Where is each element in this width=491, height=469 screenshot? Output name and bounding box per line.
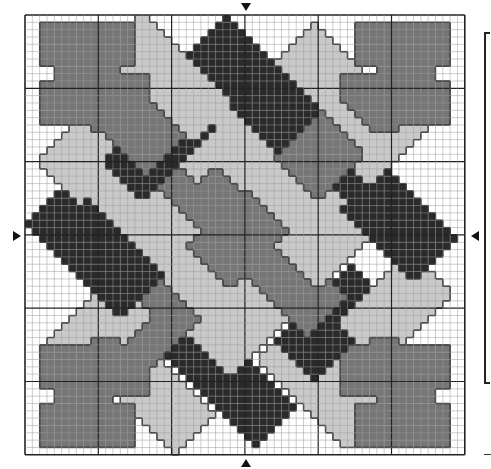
stitch-cell [208, 411, 216, 419]
stitch-cell [443, 228, 451, 236]
stitch-cell [216, 220, 224, 228]
stitch-cell [157, 59, 165, 67]
stitch-cell [98, 257, 106, 265]
stitch-cell [62, 198, 70, 206]
stitch-cell [311, 382, 319, 390]
stitch-cell [428, 360, 436, 368]
stitch-cell [377, 367, 385, 375]
stitch-cell [289, 125, 297, 133]
stitch-cell [435, 360, 443, 368]
stitch-cell [98, 162, 106, 170]
stitch-cell [384, 206, 392, 214]
stitch-cell [47, 59, 55, 67]
stitch-cell [142, 213, 150, 221]
stitch-cell [406, 279, 414, 287]
stitch-cell [172, 250, 180, 258]
stitch-cell [392, 301, 400, 309]
stitch-cell [399, 272, 407, 280]
side-bracket [484, 32, 490, 384]
stitch-cell [289, 308, 297, 316]
stitch-cell [135, 228, 143, 236]
stitch-cell [208, 169, 216, 177]
stitch-cell [296, 81, 304, 89]
stitch-cell [311, 37, 319, 45]
stitch-cell [392, 206, 400, 214]
stitch-cell [421, 367, 429, 375]
stitch-cell [238, 52, 246, 60]
stitch-cell [69, 367, 77, 375]
stitch-cell [194, 125, 202, 133]
stitch-cell [172, 235, 180, 243]
stitch-cell [377, 59, 385, 67]
stitch-cell [62, 74, 70, 82]
stitch-cell [128, 308, 136, 316]
stitch-cell [230, 52, 238, 60]
stitch-cell [113, 316, 121, 324]
stitch-cell [186, 433, 194, 441]
stitch-cell [135, 110, 143, 118]
stitch-cell [267, 213, 275, 221]
stitch-cell [326, 323, 334, 331]
stitch-cell [113, 81, 121, 89]
stitch-cell [399, 37, 407, 45]
stitch-cell [274, 162, 282, 170]
stitch-cell [135, 272, 143, 280]
stitch-cell [69, 345, 77, 353]
stitch-cell [150, 338, 158, 346]
stitch-cell [128, 59, 136, 67]
stitch-cell [164, 286, 172, 294]
stitch-cell [318, 294, 326, 302]
stitch-cell [150, 264, 158, 272]
stitch-cell [260, 162, 268, 170]
stitch-cell [186, 103, 194, 111]
stitch-cell [326, 403, 334, 411]
stitch-cell [230, 206, 238, 214]
stitch-cell [216, 37, 224, 45]
stitch-cell [69, 411, 77, 419]
stitch-cell [142, 22, 150, 30]
stitch-cell [311, 389, 319, 397]
stitch-cell [318, 279, 326, 287]
stitch-cell [326, 81, 334, 89]
stitch-cell [201, 301, 209, 309]
stitch-cell [128, 52, 136, 60]
stitch-cell [76, 433, 84, 441]
stitch-cell [289, 118, 297, 126]
stitch-cell [135, 176, 143, 184]
stitch-cell [142, 81, 150, 89]
stitch-cell [318, 147, 326, 155]
stitch-cell [223, 88, 231, 96]
stitch-cell [142, 403, 150, 411]
stitch-cell [406, 374, 414, 382]
stitch-cell [348, 338, 356, 346]
stitch-cell [216, 286, 224, 294]
stitch-cell [179, 110, 187, 118]
stitch-cell [274, 198, 282, 206]
stitch-cell [245, 425, 253, 433]
stitch-cell [362, 191, 370, 199]
stitch-cell [304, 264, 312, 272]
stitch-cell [340, 425, 348, 433]
stitch-cell [267, 382, 275, 390]
stitch-cell [245, 81, 253, 89]
stitch-cell [135, 52, 143, 60]
stitch-cell [406, 235, 414, 243]
stitch-cell [135, 301, 143, 309]
stitch-cell [62, 44, 70, 52]
stitch-cell [54, 425, 62, 433]
stitch-cell [421, 206, 429, 214]
stitch-cell [120, 403, 128, 411]
stitch-cell [223, 367, 231, 375]
stitch-cell [355, 206, 363, 214]
stitch-cell [201, 125, 209, 133]
stitch-cell [164, 382, 172, 390]
stitch-cell [282, 279, 290, 287]
stitch-cell [201, 235, 209, 243]
stitch-cell [333, 418, 341, 426]
stitch-cell [98, 37, 106, 45]
stitch-cell [230, 213, 238, 221]
stitch-cell [91, 389, 99, 397]
stitch-cell [443, 118, 451, 126]
stitch-cell [113, 103, 121, 111]
stitch-cell [399, 125, 407, 133]
